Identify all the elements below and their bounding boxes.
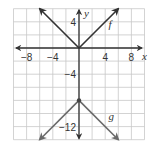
g-vertex-point <box>77 98 81 102</box>
y-tick-label: −4 <box>65 69 77 80</box>
y-axis-label: y <box>83 7 89 19</box>
x-axis-label: x <box>141 50 147 62</box>
g-left-branch <box>40 100 79 139</box>
tick-labels: −8−4484−4−12 <box>21 17 135 133</box>
graph: −8−4484−4−12 x y f g <box>0 0 152 150</box>
f-left-branch <box>40 9 79 48</box>
x-tick-label: 4 <box>102 52 108 63</box>
x-tick-label: −4 <box>47 52 59 63</box>
x-tick-label: −8 <box>21 52 33 63</box>
x-tick-label: 8 <box>129 52 135 63</box>
f-curve-label: f <box>108 18 113 30</box>
y-tick-label: −12 <box>59 122 76 133</box>
g-curve-label: g <box>108 110 114 122</box>
y-tick-label: 4 <box>70 17 76 28</box>
